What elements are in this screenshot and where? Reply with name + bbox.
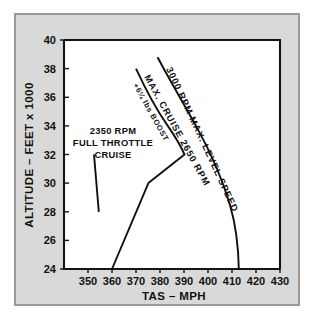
y-axis-title: ALTITUDE – FEET x 1000	[23, 82, 35, 227]
y-tick-label-40: 40	[44, 34, 56, 46]
figure-panel: 40 38 36 34 32 30 28 26 24 350 360 370 3…	[14, 13, 300, 306]
y-tick-label-32: 32	[44, 149, 56, 161]
y-tick-label-34: 34	[44, 120, 57, 132]
x-tick-label-430: 430	[271, 275, 289, 287]
x-tick-label-360: 360	[103, 275, 121, 287]
x-tick-label-410: 410	[223, 275, 241, 287]
x-tick-label-380: 380	[151, 275, 169, 287]
y-tick-label-38: 38	[44, 63, 56, 75]
x-tick-label-350: 350	[79, 275, 97, 287]
annotation-line-1: 2350 RPM	[90, 125, 137, 136]
x-tick-label-400: 400	[199, 275, 217, 287]
y-tick-label-24: 24	[44, 263, 57, 275]
x-axis-title: TAS – MPH	[142, 290, 206, 302]
annotation-line-2: FULL THROTTLE	[73, 137, 153, 148]
y-tick-label-36: 36	[44, 91, 56, 103]
x-tick-label-390: 390	[175, 275, 193, 287]
x-tick-label-420: 420	[247, 275, 265, 287]
y-tick-label-26: 26	[44, 234, 56, 246]
y-tick-label-28: 28	[44, 206, 56, 218]
performance-chart: 40 38 36 34 32 30 28 26 24 350 360 370 3…	[16, 15, 298, 304]
annotation-line-3: CRUISE	[94, 149, 131, 160]
x-tick-label-370: 370	[127, 275, 145, 287]
y-tick-label-30: 30	[44, 177, 56, 189]
